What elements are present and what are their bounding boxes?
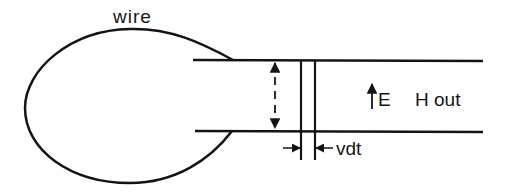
- top-conductor: [193, 60, 483, 61]
- diagram-canvas: wire vdt E H out: [0, 0, 509, 192]
- bottom-conductor: [195, 131, 483, 132]
- wire-loop: [25, 29, 233, 183]
- h-field-label: H out: [415, 89, 461, 110]
- wire-label: wire: [112, 6, 152, 27]
- vdt-label: vdt: [336, 138, 362, 159]
- e-field-label: E: [378, 89, 391, 110]
